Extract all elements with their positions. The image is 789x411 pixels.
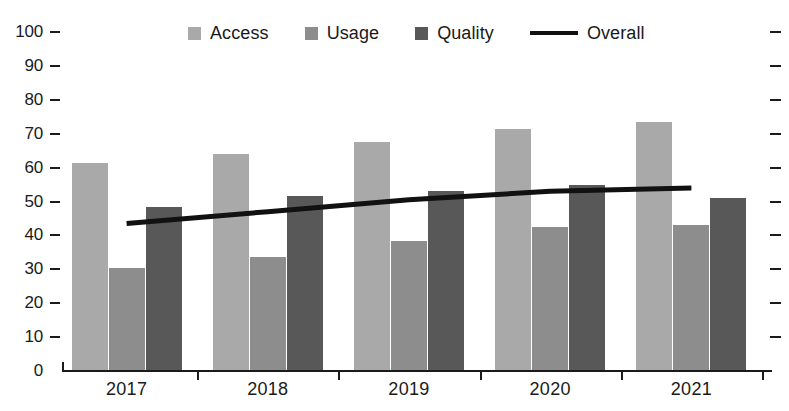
y-axis-tick-90: 90 [24, 59, 64, 73]
y-axis-tick-label: 90 [24, 59, 43, 73]
y-axis-tick-mark [50, 268, 60, 270]
chart-container: Access Usage Quality Overall 10090807060… [0, 0, 789, 411]
y-axis-right-tick-80 [770, 99, 781, 101]
y-axis-right-tick-20 [770, 302, 781, 304]
y-axis-tick-mark [50, 234, 60, 236]
x-axis-line [62, 370, 772, 372]
y-axis-right-tick-30 [770, 268, 781, 270]
y-axis-tick-100: 100 [15, 25, 64, 39]
y-axis-right-tick-60 [770, 167, 781, 169]
y-axis-tick-0: 0 [34, 364, 64, 378]
y-axis-tick-30: 30 [24, 262, 64, 276]
x-axis-label-2021: 2021 [621, 379, 762, 400]
y-axis-tick-70: 70 [24, 127, 64, 141]
y-axis-line-stub [62, 362, 64, 372]
y-axis-tick-label: 40 [24, 228, 43, 242]
y-axis-tick-label: 70 [24, 127, 43, 141]
y-axis-right-tick-100 [770, 31, 781, 33]
y-axis-right-tick-40 [770, 234, 781, 236]
bar-group-2021 [64, 26, 770, 371]
bar-access-2021[interactable] [636, 122, 672, 371]
y-axis: 1009080706050403020100 [0, 0, 64, 411]
x-axis-separator-2021 [762, 371, 764, 380]
plot-area [64, 26, 770, 371]
y-axis-tick-mark [50, 201, 60, 203]
x-axis-label-2017: 2017 [56, 379, 197, 400]
y-axis-tick-label: 50 [24, 195, 43, 209]
y-axis-right-tick-10 [770, 336, 781, 338]
y-axis-tick-mark [50, 31, 60, 33]
y-axis-right-tick-90 [770, 65, 781, 67]
top-clipped-strip [0, 0, 789, 7]
y-axis-tick-60: 60 [24, 161, 64, 175]
y-axis-tick-50: 50 [24, 195, 64, 209]
y-axis-tick-label: 20 [24, 296, 43, 310]
y-axis-tick-mark [50, 133, 60, 135]
y-axis-tick-20: 20 [24, 296, 64, 310]
y-axis-tick-10: 10 [24, 330, 64, 344]
y-axis-tick-label: 0 [34, 364, 43, 378]
bar-quality-2021[interactable] [710, 198, 746, 371]
y-axis-tick-label: 30 [24, 262, 43, 276]
y-axis-tick-mark [50, 167, 60, 169]
x-axis-label-2018: 2018 [197, 379, 338, 400]
y-axis-tick-40: 40 [24, 228, 64, 242]
y-axis-tick-mark [50, 99, 60, 101]
y-axis-tick-80: 80 [24, 93, 64, 107]
y-axis-right-tick-70 [770, 133, 781, 135]
y-axis-tick-label: 80 [24, 93, 43, 107]
y-axis-tick-label: 10 [24, 330, 43, 344]
y-axis-tick-mark [50, 302, 60, 304]
y-axis-tick-label: 100 [15, 25, 43, 39]
y-axis-tick-label: 60 [24, 161, 43, 175]
y-axis-tick-mark [50, 65, 60, 67]
y-axis-tick-mark [50, 336, 60, 338]
x-axis-label-2020: 2020 [480, 379, 621, 400]
bar-usage-2021[interactable] [673, 225, 709, 371]
x-axis-label-2019: 2019 [338, 379, 479, 400]
y-axis-right-tick-50 [770, 201, 781, 203]
